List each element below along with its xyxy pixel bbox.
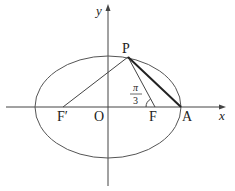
point-F-label: F [149, 109, 157, 124]
angle-numerator: π [133, 82, 139, 93]
x-axis-label: x [218, 108, 225, 123]
angle-denominator: 3 [133, 95, 138, 106]
point-Fprime-label: F′ [57, 109, 68, 124]
point-A-label: A [182, 109, 193, 124]
segment-PFprime [63, 57, 128, 107]
ellipse-diagram: y x P F′ O F A π 3 [0, 0, 235, 191]
y-axis-label: y [94, 3, 102, 18]
y-axis-arrow-icon [106, 4, 111, 11]
origin-label: O [94, 109, 104, 124]
point-P-label: P [122, 41, 130, 56]
angle-arc [146, 99, 151, 107]
